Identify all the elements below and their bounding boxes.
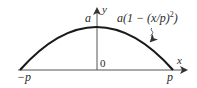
- right-root-label: p: [166, 70, 173, 84]
- origin-label: 0: [100, 57, 106, 69]
- y-axis-label: y: [101, 3, 107, 15]
- peak-label-a: a: [85, 11, 91, 25]
- pointer-squiggle: [151, 28, 153, 41]
- x-axis-label: x: [176, 54, 182, 66]
- formula-label: a(1 − (x/p)2): [117, 10, 178, 25]
- left-root-label: −p: [17, 70, 31, 84]
- parabola-diagram: a y x 0 −p p a(1 − (x/p)2): [0, 0, 197, 88]
